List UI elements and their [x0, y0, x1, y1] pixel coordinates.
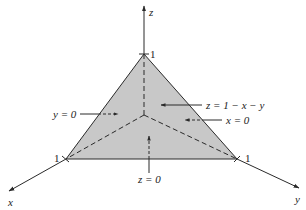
face-x0-label: x = 0: [225, 114, 250, 126]
x-tick-label: 1: [54, 152, 60, 164]
face-z0-label: z = 0: [137, 173, 161, 185]
x-axis-label: x: [7, 196, 13, 208]
z-axis-label: z: [148, 6, 154, 18]
tetrahedron-diagram: z x y 1 1 1 z = 1 − x − y x = 0 y = 0 z …: [0, 0, 306, 210]
y-axis-label: y: [294, 193, 300, 205]
z-tick-label: 1: [150, 48, 156, 60]
face-y0-label: y = 0: [52, 108, 77, 120]
plane-equation-label: z = 1 − x − y: [205, 99, 264, 111]
y-tick-label: 1: [245, 152, 251, 164]
